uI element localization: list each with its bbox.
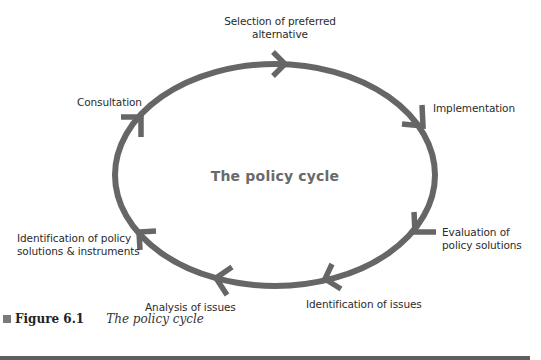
- stage-label-consultation-line1: Consultation: [77, 96, 142, 109]
- stage-label-selection: Selection of preferred alternative: [222, 15, 338, 41]
- stage-label-identification-solutions-line1: Identification of policy: [17, 232, 140, 245]
- figure-number: Figure 6.1: [15, 312, 84, 326]
- stage-label-identification-issues: Identification of issues: [306, 298, 422, 311]
- figure-caption: Figure 6.1 The policy cycle: [3, 312, 204, 326]
- caption-square-icon: [3, 315, 11, 323]
- figure-title: The policy cycle: [106, 312, 204, 326]
- stage-label-identification-solutions-line2: solutions & instruments: [17, 245, 140, 258]
- stage-label-implementation: Implementation: [433, 102, 515, 115]
- stage-label-evaluation-line2: policy solutions: [442, 239, 522, 252]
- stage-label-evaluation: Evaluation of policy solutions: [442, 226, 522, 252]
- bottom-divider: [0, 356, 530, 360]
- stage-label-identification-issues-line1: Identification of issues: [306, 298, 422, 311]
- stage-label-implementation-line1: Implementation: [433, 102, 515, 115]
- stage-label-evaluation-line1: Evaluation of: [442, 226, 522, 239]
- stage-label-consultation: Consultation: [77, 96, 142, 109]
- stage-label-identification-solutions: Identification of policy solutions & ins…: [17, 232, 140, 258]
- stage-label-selection-line1: Selection of preferred: [222, 15, 338, 28]
- stage-label-selection-line2: alternative: [222, 28, 338, 41]
- diagram-center-title: The policy cycle: [205, 168, 345, 184]
